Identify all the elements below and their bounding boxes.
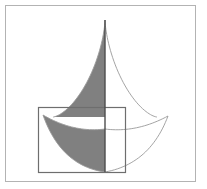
figure-root: Astroid with shaded regions and bounding… <box>0 0 207 189</box>
geometry-figure: Astroid with shaded regions and bounding… <box>0 0 207 189</box>
